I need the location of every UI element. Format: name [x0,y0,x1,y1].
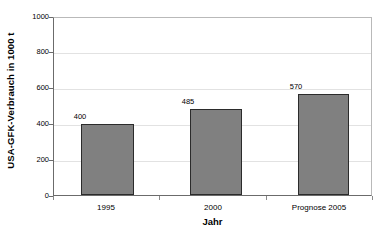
bar-2000[interactable] [190,109,242,195]
y-axis-title: USA-GFK-Verbrauch in 1000 t [0,0,20,200]
y-tick-label: 800 [21,48,49,56]
x-tick-label-prognose-2005: Prognose 2005 [264,203,374,213]
bar-value-label: 485 [158,97,218,106]
y-tick-label: 400 [21,120,49,128]
y-tick-label: 0 [21,192,49,200]
bar-chart-figure: USA-GFK-Verbrauch in 1000 t 1000 800 600… [0,0,387,237]
y-axis-title-label: USA-GFK-Verbrauch in 1000 t [5,32,16,168]
x-axis-title: Jahr [53,216,372,227]
bar-value-label: 570 [266,82,326,91]
gridline [54,53,371,54]
plot-area [53,17,372,196]
y-tick-label: 1000 [21,13,49,21]
x-tick-mark [159,196,160,200]
bar-prognose-2005[interactable] [298,94,349,195]
x-tick-label-2000: 2000 [158,203,268,213]
y-tick-label: 200 [21,156,49,164]
x-tick-mark [53,196,54,200]
bar-value-label: 400 [50,112,110,121]
x-tick-mark [266,196,267,200]
y-tick-label: 600 [21,84,49,92]
bar-1995[interactable] [81,124,134,195]
x-tick-mark [372,196,373,200]
x-tick-label-1995: 1995 [51,203,161,213]
y-axis-tick-labels: 1000 800 600 400 200 0 [19,0,49,237]
